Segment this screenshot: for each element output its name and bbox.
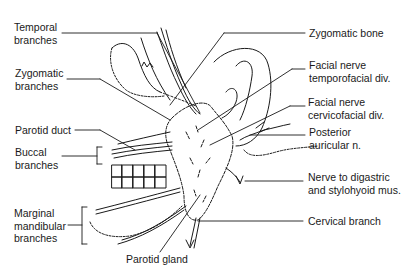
facial-nerve-diagram: Temporal branches Zygomatic branches Par…	[0, 0, 404, 274]
label-line: Parotid gland	[126, 253, 188, 266]
label-line: branches	[15, 80, 63, 93]
buccal-branches	[112, 132, 172, 158]
temporal-branches	[141, 28, 200, 114]
label-cervical-branch: Cervical branch	[308, 215, 381, 228]
zygomatic-bone-outline	[111, 43, 196, 106]
label-line: branches	[15, 159, 58, 172]
label-facial-nerve-temporofacial: Facial nerve temporofacial div.	[309, 59, 391, 84]
cervical-branch	[186, 218, 200, 248]
label-line: branches	[14, 34, 57, 47]
parotid-gland	[166, 103, 233, 220]
teeth	[112, 165, 166, 188]
label-line: Facial nerve	[308, 96, 384, 109]
label-line: auricular n.	[309, 139, 361, 152]
label-facial-nerve-cervicofacial: Facial nerve cervicofacial div.	[308, 96, 384, 121]
label-line: Marginal	[14, 207, 66, 220]
label-line: Zygomatic bone	[309, 27, 384, 40]
label-line: temporofacial div.	[309, 72, 391, 85]
label-line: cervicofacial div.	[308, 109, 384, 122]
label-zygomatic-branches: Zygomatic branches	[15, 67, 63, 92]
label-line: Buccal	[15, 146, 58, 159]
label-line: branches	[14, 232, 66, 245]
label-zygomatic-bone: Zygomatic bone	[309, 27, 384, 40]
label-line: Cervical branch	[308, 215, 381, 228]
digastric-nerve	[226, 168, 243, 184]
label-buccal-branches: Buccal branches	[15, 146, 58, 171]
label-line: and stylohyoid mus.	[308, 184, 401, 197]
label-line: Nerve to digastric	[308, 171, 401, 184]
label-posterior-auricular: Posterior auricular n.	[309, 126, 361, 151]
label-temporal-branches: Temporal branches	[14, 21, 57, 46]
label-line: Facial nerve	[309, 59, 391, 72]
label-parotid-duct: Parotid duct	[15, 124, 71, 137]
label-nerve-to-digastric: Nerve to digastric and stylohyoid mus.	[308, 171, 401, 196]
posterior-auricular-nerve	[240, 122, 318, 156]
label-line: Parotid duct	[15, 124, 71, 137]
label-line: Posterior	[309, 126, 361, 139]
label-marginal-mandibular-branches: Marginal mandibular branches	[14, 207, 66, 245]
label-line: mandibular	[14, 220, 66, 233]
label-line: Temporal	[14, 21, 57, 34]
label-parotid-gland: Parotid gland	[126, 253, 188, 266]
label-line: Zygomatic	[15, 67, 63, 80]
